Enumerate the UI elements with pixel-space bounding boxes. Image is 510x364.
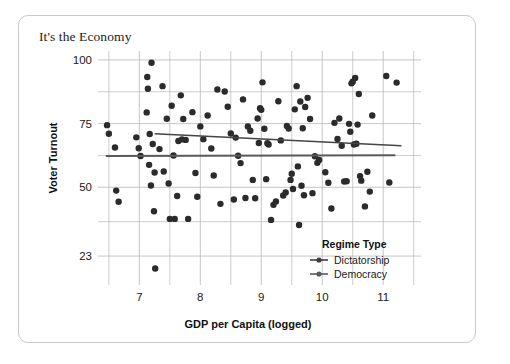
data-point: [331, 120, 337, 126]
data-point: [296, 222, 302, 228]
y-tick-label: 23: [79, 250, 92, 262]
data-point: [237, 160, 243, 166]
data-point: [174, 193, 180, 199]
x-tick-label: 11: [377, 291, 389, 303]
data-point: [147, 131, 153, 137]
data-point: [290, 186, 296, 192]
data-point: [242, 195, 248, 201]
data-point: [309, 190, 315, 196]
data-point: [298, 183, 304, 189]
data-point: [301, 192, 307, 198]
data-point: [352, 75, 358, 81]
data-point: [304, 95, 310, 101]
data-point: [115, 199, 121, 205]
data-point: [369, 112, 375, 118]
data-point: [252, 195, 258, 201]
x-axis-title: GDP per Capita (logged): [185, 318, 312, 330]
data-point: [192, 170, 198, 176]
data-point: [346, 121, 352, 127]
data-point: [254, 115, 260, 121]
data-point: [297, 98, 303, 104]
data-point: [148, 182, 154, 188]
data-point: [136, 145, 142, 151]
data-point: [185, 216, 191, 222]
data-point: [161, 168, 167, 174]
data-point: [182, 137, 188, 143]
x-tick-label: 8: [197, 291, 203, 303]
data-point: [325, 180, 331, 186]
data-point: [104, 122, 110, 128]
data-point: [259, 79, 265, 85]
data-point: [356, 91, 362, 97]
legend-title: Regime Type: [322, 238, 387, 250]
data-point: [231, 196, 237, 202]
data-point: [316, 157, 322, 163]
data-point: [168, 103, 174, 109]
chart-card: It's the Economy 7891011 235075100 GDP p…: [18, 15, 476, 343]
data-point: [113, 187, 119, 193]
data-point: [364, 169, 370, 175]
data-point: [240, 96, 246, 102]
data-point: [287, 177, 293, 183]
data-point: [152, 265, 158, 271]
data-point: [322, 169, 328, 175]
x-tick-label: 10: [316, 291, 329, 303]
data-point: [293, 83, 299, 89]
y-tick-label: 100: [73, 54, 92, 66]
data-point: [250, 177, 256, 183]
data-point: [148, 60, 154, 66]
data-point: [367, 188, 373, 194]
legend-marker-dot-dictatorship: [316, 257, 321, 262]
data-point: [362, 203, 368, 209]
data-point: [354, 121, 360, 127]
data-point: [302, 104, 308, 110]
data-point: [393, 79, 399, 85]
data-point: [343, 178, 349, 184]
y-tick-label: 50: [79, 181, 92, 193]
data-point: [159, 83, 165, 89]
data-point: [197, 123, 203, 129]
data-point: [146, 162, 152, 168]
data-point: [282, 189, 288, 195]
data-point: [295, 163, 301, 169]
x-tick-label: 9: [258, 291, 264, 303]
data-point: [300, 125, 306, 131]
data-point: [225, 104, 231, 110]
data-point: [256, 140, 262, 146]
data-point: [156, 146, 162, 152]
data-point: [268, 217, 274, 223]
data-point: [336, 115, 342, 121]
data-point: [189, 109, 195, 115]
data-point: [151, 169, 157, 175]
trend-line-democracy: [106, 155, 396, 156]
data-point: [150, 141, 156, 147]
y-axis-tick-labels: 235075100: [73, 54, 92, 262]
data-point: [214, 86, 220, 92]
legend-marker-dot-democracy: [316, 271, 321, 276]
data-point: [265, 141, 271, 147]
data-point: [358, 177, 364, 183]
x-tick-label: 7: [136, 291, 142, 303]
data-point: [334, 136, 340, 142]
data-point: [261, 125, 267, 131]
data-point: [151, 208, 157, 214]
data-point: [247, 128, 253, 134]
data-point: [286, 125, 292, 131]
y-axis-title: Voter Turnout: [47, 122, 59, 193]
data-point: [145, 86, 151, 92]
data-point: [164, 116, 170, 122]
data-point: [204, 112, 210, 118]
data-point: [208, 145, 214, 151]
data-point: [112, 144, 118, 150]
data-point: [178, 92, 184, 98]
data-point: [180, 116, 186, 122]
data-point: [275, 98, 281, 104]
data-point: [106, 131, 112, 137]
data-point: [383, 73, 389, 79]
data-point: [217, 201, 223, 207]
legend-label-democracy[interactable]: Democracy: [334, 268, 388, 280]
data-point: [222, 88, 228, 94]
data-point: [258, 107, 264, 113]
data-point: [165, 180, 171, 186]
legend-label-dictatorship[interactable]: Dictatorship: [334, 254, 390, 266]
